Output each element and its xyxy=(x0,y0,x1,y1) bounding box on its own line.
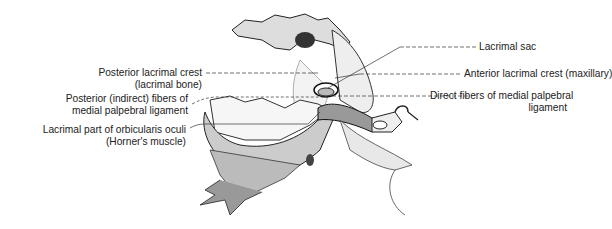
label-line: Direct fibers of medial palpebral xyxy=(430,90,567,102)
label-direct-fibers: Direct fibers of medial palpebral ligame… xyxy=(430,90,567,113)
label-line: Anterior lacrimal crest (maxillary) xyxy=(464,68,612,80)
label-line: Posterior (indirect) fibers of xyxy=(20,93,188,105)
label-anterior-lacrimal-crest: Anterior lacrimal crest (maxillary) xyxy=(464,68,612,80)
label-line: Lacrimal part of orbicularis oculi xyxy=(0,124,186,136)
label-line: (Horner's muscle) xyxy=(0,136,186,148)
label-line: (lacrimal bone) xyxy=(40,79,202,91)
label-line: ligament xyxy=(430,102,567,114)
label-posterior-lacrimal-crest: Posterior lacrimal crest (lacrimal bone) xyxy=(40,67,202,90)
label-posterior-fibers: Posterior (indirect) fibers of medial pa… xyxy=(20,93,188,116)
label-line: medial palpebral ligament xyxy=(20,105,188,117)
label-lacrimal-sac: Lacrimal sac xyxy=(479,41,536,53)
label-line: Lacrimal sac xyxy=(479,41,536,53)
label-line: Posterior lacrimal crest xyxy=(40,67,202,79)
label-lacrimal-part-orbicularis: Lacrimal part of orbicularis oculi (Horn… xyxy=(0,124,186,147)
